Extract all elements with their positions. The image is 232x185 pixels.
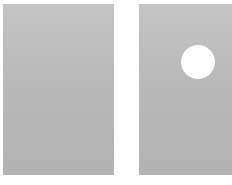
right-gray-panel [139,4,232,175]
left-gray-panel [3,4,114,175]
white-circle [181,45,215,79]
